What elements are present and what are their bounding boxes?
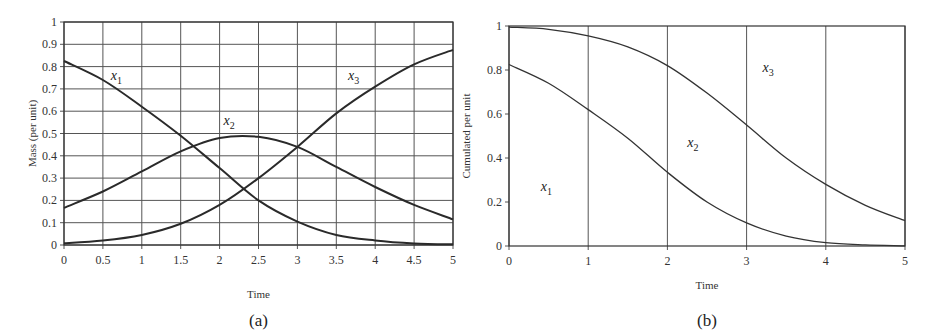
x-tick-label: 1 [585, 254, 591, 268]
y-tick-label: 0.4 [42, 149, 57, 163]
series-label-x3: x3 [347, 68, 359, 86]
y-axis-title: Cumulated per unit [460, 94, 472, 179]
series-label-x3: x3 [761, 60, 773, 78]
x-tick-label: 2.5 [251, 253, 266, 267]
x-tick-label: 0 [61, 253, 67, 267]
gridlines [60, 22, 453, 249]
y-tick-label: 1 [496, 19, 502, 33]
chart-b-cumulated-vs-time: 00.20.40.60.81012345x1x2x3TimeCumulated … [460, 19, 908, 330]
y-tick-label: 0.2 [487, 195, 502, 209]
y-tick-label: 0.4 [487, 151, 502, 165]
x-tick-label: 2 [664, 254, 670, 268]
x-tick-label: 3 [744, 254, 750, 268]
y-tick-label: 0.8 [487, 63, 502, 77]
chart-a-mass-vs-time: 00.10.20.30.40.50.60.70.80.9100.511.522.… [26, 15, 456, 330]
y-tick-label: 0.7 [42, 82, 57, 96]
x-tick-label: 1.5 [173, 253, 188, 267]
x-axis-title: Time [696, 279, 719, 291]
y-tick-label: 0.3 [42, 171, 57, 185]
series-label-x1: x1 [110, 68, 122, 86]
plot-frame [509, 26, 905, 246]
series-label-x2: x2 [222, 113, 234, 131]
x-tick-label: 5 [902, 254, 908, 268]
series-label-x1: x1 [540, 179, 552, 197]
series-label-x2: x2 [686, 135, 698, 153]
x-tick-label: 0 [506, 254, 512, 268]
series-line-x1 [509, 65, 905, 246]
y-tick-label: 0.6 [42, 104, 57, 118]
y-tick-label: 0 [51, 238, 57, 252]
x-tick-label: 0.5 [95, 253, 110, 267]
y-tick-label: 1 [51, 15, 57, 29]
y-tick-label: 0.9 [42, 37, 57, 51]
x-tick-label: 1 [139, 253, 145, 267]
subfigure-caption: (b) [697, 311, 717, 330]
y-tick-label: 0.5 [42, 127, 57, 141]
x-tick-label: 5 [450, 253, 456, 267]
x-tick-label: 3.5 [329, 253, 344, 267]
x-tick-label: 3 [294, 253, 300, 267]
y-tick-label: 0 [496, 239, 502, 253]
x-tick-label: 2 [217, 253, 223, 267]
y-tick-label: 0.8 [42, 60, 57, 74]
x-tick-label: 4 [372, 253, 378, 267]
y-tick-label: 0.2 [42, 193, 57, 207]
subfigure-caption: (a) [249, 311, 268, 330]
y-tick-label: 0.6 [487, 107, 502, 121]
y-axis-title: Mass (per unit) [26, 100, 39, 168]
gridlines [505, 26, 905, 250]
x-tick-label: 4.5 [407, 253, 422, 267]
series-line-x1-plus-x2 [509, 27, 905, 221]
x-tick-label: 4 [823, 254, 829, 268]
figure-canvas: 00.10.20.30.40.50.60.70.80.9100.511.522.… [0, 0, 926, 336]
x-axis-title: Time [247, 288, 270, 300]
y-tick-label: 0.1 [42, 216, 57, 230]
